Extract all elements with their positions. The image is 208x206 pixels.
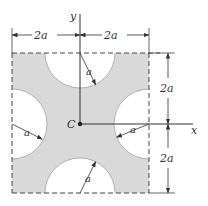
- y-axis-label: y: [69, 10, 77, 23]
- radius-left: a: [12, 124, 42, 139]
- centroid-point: [78, 122, 82, 126]
- dimension-top-right: 2a: [81, 29, 149, 42]
- radius-bottom: a: [80, 162, 96, 193]
- svg-text:a: a: [85, 173, 91, 184]
- dimension-right-lower: 2a: [159, 125, 174, 193]
- svg-text:2a: 2a: [159, 82, 174, 95]
- dimension-right-upper: 2a: [159, 54, 174, 124]
- plate-diagram: y x C 2a 2a 2a 2a a a a a: [0, 0, 208, 206]
- radius-right: a: [117, 124, 149, 137]
- svg-text:a: a: [24, 127, 30, 138]
- svg-text:2a: 2a: [33, 29, 48, 42]
- svg-text:2a: 2a: [103, 29, 118, 42]
- centroid-label: C: [67, 118, 76, 131]
- dimension-top-left: 2a: [13, 29, 80, 42]
- x-axis-label: x: [191, 124, 198, 137]
- svg-text:a: a: [86, 66, 92, 77]
- radius-top: a: [80, 53, 96, 85]
- svg-text:a: a: [130, 124, 136, 135]
- svg-text:2a: 2a: [159, 152, 174, 165]
